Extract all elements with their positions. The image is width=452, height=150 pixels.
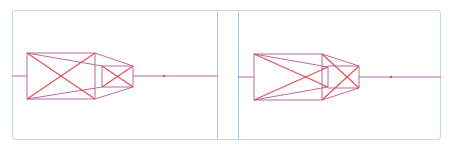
right-center-dot [390, 76, 392, 78]
left-edge-line [95, 87, 133, 99]
right-edge-line [254, 54, 328, 67]
right-edge-line [322, 88, 359, 100]
wireframe-drawing [0, 0, 452, 150]
left-center-dot [163, 75, 165, 77]
right-edge-line [254, 87, 328, 100]
left-edge-line [27, 87, 102, 99]
right-cross-line [254, 54, 328, 87]
right-cross-line [254, 67, 328, 100]
left-edge-line [27, 53, 102, 66]
right-edge-line [322, 54, 359, 66]
left-edge-line [95, 53, 133, 66]
